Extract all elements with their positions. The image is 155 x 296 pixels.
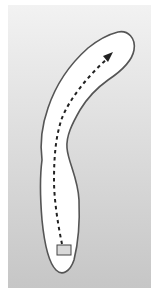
tee-box [57, 245, 71, 255]
hole-diagram [0, 0, 155, 296]
